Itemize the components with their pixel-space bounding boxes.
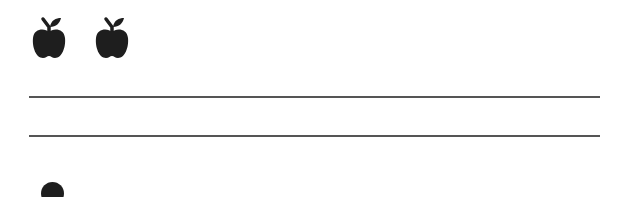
writing-line-top: [29, 96, 600, 98]
apple-icon: [32, 16, 66, 59]
circle-icon: [41, 182, 64, 197]
writing-line-bottom: [29, 135, 600, 137]
apple-icon: [95, 16, 129, 59]
